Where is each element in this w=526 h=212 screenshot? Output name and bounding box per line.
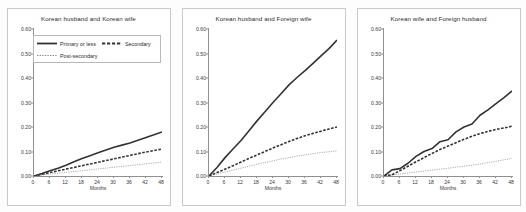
y-tick-mark bbox=[206, 29, 208, 30]
legend-entry-primary: Primary or less bbox=[37, 38, 96, 49]
line-dashed-icon bbox=[102, 40, 122, 47]
y-tick-label: 0.30 bbox=[196, 100, 206, 106]
figure-canvas: Korean husband and Korean wife 0.000.100… bbox=[0, 0, 526, 212]
chart-legend: Primary or less Secondary Post-secondary bbox=[33, 35, 161, 63]
x-tick-mark bbox=[463, 176, 464, 178]
y-tick-label: 0.00 bbox=[371, 173, 381, 179]
x-axis-title: Months bbox=[33, 185, 163, 191]
x-tick-mark bbox=[336, 176, 337, 178]
y-tick-mark bbox=[31, 127, 33, 128]
y-tick-mark bbox=[206, 102, 208, 103]
x-tick-mark bbox=[240, 176, 241, 178]
y-tick-label: 0.50 bbox=[21, 51, 31, 57]
y-tick-mark bbox=[381, 29, 383, 30]
line-dotted-icon bbox=[37, 52, 57, 59]
panel-title: Korean husband and Korean wife bbox=[1, 15, 176, 22]
y-tick-mark bbox=[381, 127, 383, 128]
x-tick-mark bbox=[399, 176, 400, 178]
series-line bbox=[384, 126, 512, 176]
y-tick-label: 0.60 bbox=[371, 26, 381, 32]
x-tick-mark bbox=[447, 176, 448, 178]
y-tick-label: 0.60 bbox=[196, 26, 206, 32]
y-tick-mark bbox=[206, 53, 208, 54]
series-canvas bbox=[384, 29, 512, 176]
x-tick-mark bbox=[208, 176, 209, 178]
legend-label: Post-secondary bbox=[60, 53, 97, 59]
x-tick-mark bbox=[320, 176, 321, 178]
y-tick-mark bbox=[31, 151, 33, 152]
plot-area bbox=[209, 29, 337, 176]
chart-panel-2: Korean wife and Foreign husband 0.000.10… bbox=[351, 0, 526, 212]
y-tick-mark bbox=[31, 102, 33, 103]
x-tick-mark bbox=[49, 176, 50, 178]
x-tick-mark bbox=[129, 176, 130, 178]
y-tick-label: 0.00 bbox=[196, 173, 206, 179]
y-tick-mark bbox=[206, 127, 208, 128]
y-tick-label: 0.50 bbox=[371, 51, 381, 57]
y-tick-label: 0.30 bbox=[371, 100, 381, 106]
series-line bbox=[384, 91, 512, 176]
series-line bbox=[34, 132, 162, 176]
x-tick-mark bbox=[81, 176, 82, 178]
legend-entry-secondary: Secondary bbox=[102, 38, 151, 49]
y-tick-label: 0.10 bbox=[371, 149, 381, 155]
y-tick-mark bbox=[206, 151, 208, 152]
x-tick-mark bbox=[495, 176, 496, 178]
series-line bbox=[209, 127, 337, 176]
x-tick-mark bbox=[65, 176, 66, 178]
x-axis-title: Months bbox=[208, 185, 338, 191]
y-tick-label: 0.40 bbox=[371, 75, 381, 81]
panel-title: Korean wife and Foreign husband bbox=[351, 15, 526, 22]
legend-label: Secondary bbox=[125, 41, 151, 47]
panel-title: Korean husband and Foreign wife bbox=[176, 15, 351, 22]
y-tick-mark bbox=[381, 151, 383, 152]
y-tick-mark bbox=[381, 78, 383, 79]
y-tick-label: 0.40 bbox=[21, 75, 31, 81]
legend-label: Primary or less bbox=[60, 41, 96, 47]
y-tick-label: 0.50 bbox=[196, 51, 206, 57]
x-tick-mark bbox=[145, 176, 146, 178]
y-tick-label: 0.20 bbox=[371, 124, 381, 130]
x-tick-mark bbox=[288, 176, 289, 178]
x-tick-mark bbox=[224, 176, 225, 178]
x-tick-mark bbox=[113, 176, 114, 178]
y-tick-mark bbox=[31, 78, 33, 79]
y-tick-mark bbox=[381, 102, 383, 103]
y-tick-label: 0.60 bbox=[21, 26, 31, 32]
y-tick-mark bbox=[31, 29, 33, 30]
x-tick-mark bbox=[256, 176, 257, 178]
y-tick-mark bbox=[206, 78, 208, 79]
x-tick-mark bbox=[511, 176, 512, 178]
line-solid-icon bbox=[37, 40, 57, 47]
x-tick-mark bbox=[431, 176, 432, 178]
y-tick-label: 0.00 bbox=[21, 173, 31, 179]
series-line bbox=[209, 40, 337, 176]
x-tick-mark bbox=[272, 176, 273, 178]
x-tick-mark bbox=[304, 176, 305, 178]
x-tick-mark bbox=[415, 176, 416, 178]
chart-panel-0: Korean husband and Korean wife 0.000.100… bbox=[1, 0, 176, 212]
x-tick-mark bbox=[383, 176, 384, 178]
plot-area bbox=[384, 29, 512, 176]
y-tick-label: 0.30 bbox=[21, 100, 31, 106]
y-tick-label: 0.10 bbox=[21, 149, 31, 155]
x-axis-title: Months bbox=[383, 185, 513, 191]
x-tick-mark bbox=[97, 176, 98, 178]
x-tick-mark bbox=[479, 176, 480, 178]
series-canvas bbox=[209, 29, 337, 176]
y-tick-mark bbox=[381, 53, 383, 54]
y-tick-label: 0.20 bbox=[21, 124, 31, 130]
legend-entry-post-secondary: Post-secondary bbox=[37, 50, 97, 61]
x-tick-mark bbox=[33, 176, 34, 178]
y-tick-label: 0.40 bbox=[196, 75, 206, 81]
x-tick-mark bbox=[161, 176, 162, 178]
y-tick-label: 0.20 bbox=[196, 124, 206, 130]
y-tick-label: 0.10 bbox=[196, 149, 206, 155]
chart-panel-1: Korean husband and Foreign wife 0.000.10… bbox=[176, 0, 351, 212]
